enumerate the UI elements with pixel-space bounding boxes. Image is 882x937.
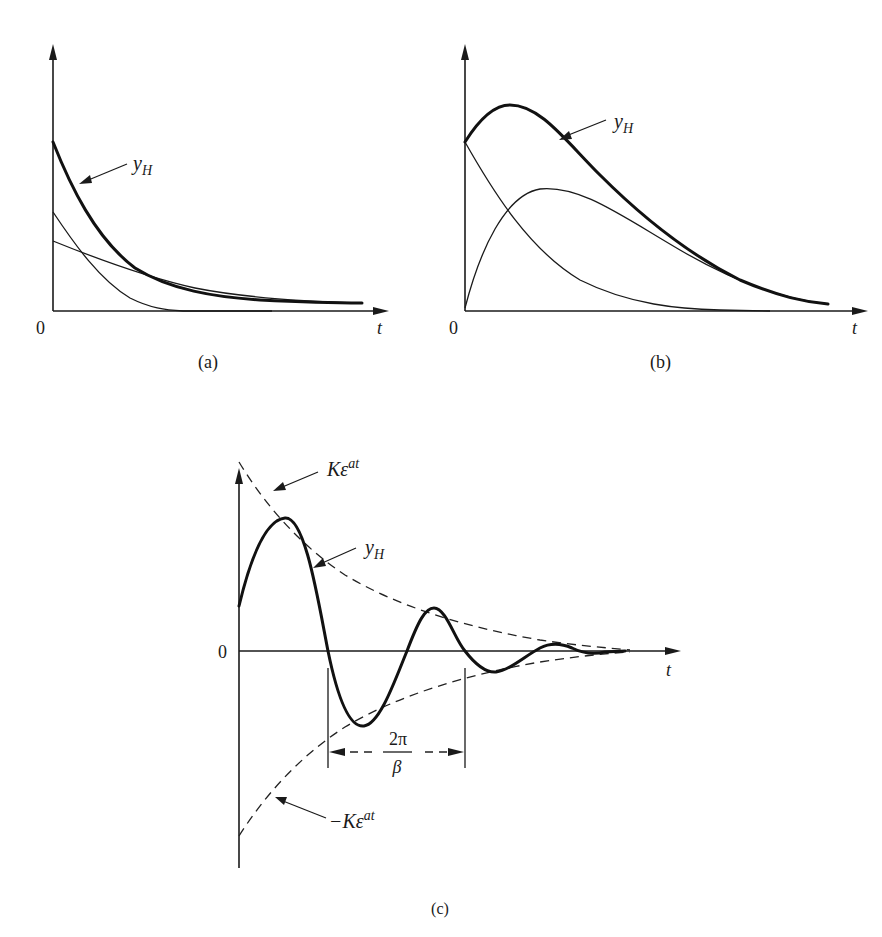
caption-a: (a) [198,352,218,373]
yh-curve-a [53,142,362,303]
period-numerator: 2π [389,729,407,749]
x-axis-arrow-icon [852,307,868,315]
yh-label-a: yH [131,152,153,178]
yh-pointer-c [320,548,356,564]
panel-a: yH 0 t (a) [36,44,389,373]
pointer-arrow-icon [79,175,92,184]
y-axis-arrow-icon [461,44,469,60]
period-arrow-left-icon [329,748,345,756]
upper-envelope-pointer [280,472,318,488]
lower-envelope-pointer [283,801,326,818]
lower-envelope-label: −Kεat [329,808,376,832]
origin-label-c: 0 [218,642,227,662]
yh-label-c: yH [363,536,385,562]
t-label-b: t [852,318,858,338]
origin-label-a: 0 [36,318,45,338]
yh-label-b: yH [612,110,634,136]
lower-envelope-curve [239,652,630,836]
x-axis-arrow-icon [665,647,681,655]
pointer-arrow-icon [273,482,286,491]
pointer-arrow-icon [275,797,287,805]
panel-c: Kεat yH −Kεat 2π β 0 t (c) [218,456,681,918]
upper-envelope-curve [239,462,630,650]
period-arrow-right-icon [448,748,464,756]
caption-c: (c) [431,900,449,918]
y-axis-arrow-icon [49,44,57,60]
pointer-arrow-icon [313,558,326,568]
yh-curve-b [465,105,828,304]
t-exponential-curve [465,189,828,308]
panel-b: yH 0 t (b) [449,44,868,373]
decaying-exponential-curve [465,142,770,311]
y-axis-arrow-icon [235,468,243,484]
origin-label-b: 0 [449,318,458,338]
yh-pointer-b [566,120,606,136]
t-label-c: t [666,660,672,680]
x-axis-arrow-icon [373,307,389,315]
t-label-a: t [377,318,383,338]
upper-envelope-label: Kεat [326,456,360,480]
caption-b: (b) [650,352,671,373]
yh-curve-c [239,518,625,726]
fast-exponential-curve [53,212,272,311]
figure-canvas: yH 0 t (a) yH 0 t (b) [0,0,882,937]
period-denominator: β [392,757,402,777]
yh-pointer-a [86,164,127,181]
